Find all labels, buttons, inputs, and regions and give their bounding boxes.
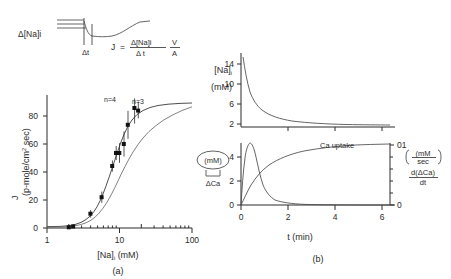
data-point — [117, 143, 121, 163]
panel-b-bottom-ytick-2: 2 — [229, 176, 234, 186]
figure-root: Δ[Na]i Δt J = Δ[Na]i Δ t — [0, 0, 451, 279]
panel-a-ylabel-units: (p-mole/cm2 sec) — [21, 128, 31, 196]
panel-b-bottom-ytick-0: 0 — [229, 200, 234, 210]
panel-b-top-ytick-6: 6 — [229, 99, 234, 109]
panel-a-xtick-10: 10 — [115, 235, 125, 245]
right-paren-close — [438, 150, 441, 164]
panel-b-left-bracket — [206, 170, 220, 176]
panel-a-ylabel-group: J (p-mole/cm2 sec) — [10, 128, 31, 200]
panel-b-xtick-4: 4 — [333, 212, 338, 222]
panel-b-xtick-0: 0 — [239, 212, 244, 222]
figure-svg: Δ[Na]i Δt J = Δ[Na]i Δ t — [0, 0, 451, 279]
panel-b-right-label-num: d(ΔCa) — [411, 168, 435, 177]
panel-b-xtick-2: 2 — [286, 212, 291, 222]
panel-b-bottom-ytick-right-0: 0 — [397, 200, 402, 210]
panel-a-ytick-0: 0 — [33, 223, 38, 233]
panel-a-curve-n3 — [47, 107, 192, 227]
panel-b-top-ylabel-units: (mM) — [211, 82, 232, 92]
panel-b-bottom-trace-ca-uptake — [241, 144, 390, 205]
panel-a-x-minor-ticks — [69, 224, 189, 228]
data-point — [71, 224, 75, 229]
panel-b-top-trace-nai — [243, 57, 390, 125]
panel-b-bottom-ytick-4: 4 — [229, 152, 234, 162]
data-point — [122, 131, 126, 156]
inset-ylabel: Δ[Na]i — [18, 29, 41, 39]
panel-a-xtick-100: 100 — [185, 235, 199, 245]
panel-a-ylabel-J: J — [10, 196, 20, 201]
panel-b-bottom-ytick-right-01: 01 — [397, 140, 407, 150]
data-point — [126, 111, 130, 139]
right-paren-open — [406, 150, 409, 164]
panel-a-label-n4: n=4 — [104, 96, 116, 103]
formula-numerator: Δ[Na]i — [131, 38, 152, 47]
panel-a-xlabel: [Na]i (mM) — [97, 250, 138, 261]
panel-a-datapoints — [67, 98, 140, 229]
inset-dt-label: Δt — [82, 48, 90, 57]
inset-waveform-group: Δ[Na]i Δt J = Δ[Na]i Δ t — [18, 18, 180, 58]
panel-a-xtick-1: 1 — [45, 235, 50, 245]
panel-b-annotation-ca-uptake: Ca uptake — [320, 141, 354, 150]
panel-b-left-label-dCa: ΔCa — [206, 179, 221, 188]
formula-numerator-2: V — [172, 38, 177, 47]
panel-b-right-label-sec: sec — [417, 157, 429, 166]
inset-formula: J = Δ[Na]i Δ t V A — [111, 38, 180, 58]
panel-b-top-x-ticks — [288, 127, 382, 131]
panel-b-bottom: 0 2 4 0 01 0 2 4 6 Ca u — [197, 140, 441, 264]
panel-b-top-ytick-2: 2 — [229, 119, 234, 129]
formula-equals: = — [120, 42, 125, 52]
data-point — [67, 225, 71, 229]
panel-b-bottom-trace-dca-dt — [241, 143, 390, 205]
formula-denominator: Δ t — [136, 49, 146, 58]
panel-b-xtick-6: 6 — [380, 212, 385, 222]
formula-J: J — [111, 42, 115, 52]
panel-a-x-major-ticks: 1 10 100 — [45, 228, 200, 245]
panel-b-xlabel: t (min) — [287, 232, 313, 242]
panel-b-right-label-den: dt — [420, 178, 427, 187]
panel-b-top: 2 6 10 14 [Na]i (mM) — [211, 53, 395, 131]
formula-denominator-2: A — [172, 49, 177, 58]
panel-b-bottom-y-ticks-left: 0 2 4 — [229, 152, 241, 210]
panel-a-label: (a) — [113, 266, 124, 276]
panel-b-bottom-left-label: (mM) ΔCa — [197, 151, 229, 188]
panel-b-top-ylabel-nai: [Na]i — [214, 65, 232, 76]
inset-trace — [84, 21, 150, 37]
panel-a-curve-n4 — [47, 103, 192, 227]
panel-a: 0 20 40 60 80 — [10, 95, 199, 276]
panel-b-bottom-y-ticks-right: 0 01 — [390, 140, 407, 210]
panel-b-label: (b) — [313, 254, 324, 264]
panel-a-y-ticks: 0 20 40 60 80 — [29, 111, 47, 233]
panel-b-bottom-right-label: (mM sec d(ΔCa) dt — [406, 149, 441, 187]
panel-b-left-label-mM: (mM) — [204, 156, 222, 165]
panel-a-ytick-80: 80 — [29, 111, 39, 121]
panel-b-bottom-x-ticks: 0 2 4 6 — [239, 205, 385, 222]
data-point — [110, 160, 114, 171]
